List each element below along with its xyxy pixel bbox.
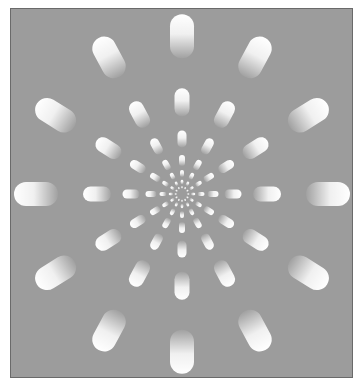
capsule xyxy=(170,14,194,58)
capsule xyxy=(181,186,183,189)
capsule xyxy=(149,232,165,251)
capsule xyxy=(175,196,178,199)
capsule xyxy=(181,199,183,202)
capsule xyxy=(14,182,58,206)
capsule xyxy=(181,180,184,185)
radial-capsule-pattern xyxy=(0,0,361,389)
capsule xyxy=(178,241,187,258)
capsule xyxy=(234,32,276,82)
capsule xyxy=(200,232,216,251)
capsule xyxy=(178,130,187,147)
capsule xyxy=(180,170,184,177)
capsule xyxy=(178,187,181,190)
capsule xyxy=(161,180,169,187)
capsule xyxy=(179,222,185,233)
capsule xyxy=(240,226,272,254)
capsule xyxy=(200,137,216,156)
capsule xyxy=(175,88,190,116)
capsule xyxy=(174,181,178,186)
capsule xyxy=(169,208,176,216)
capsule xyxy=(160,192,167,196)
capsule xyxy=(161,159,171,172)
capsule xyxy=(185,181,189,186)
capsule xyxy=(211,99,237,131)
capsule xyxy=(185,202,189,207)
capsule xyxy=(170,198,175,203)
capsule xyxy=(283,251,333,295)
capsule xyxy=(149,205,162,216)
capsule xyxy=(186,196,189,199)
capsule xyxy=(126,99,152,131)
capsule xyxy=(184,198,187,201)
capsule xyxy=(184,187,187,190)
capsule xyxy=(194,180,202,187)
capsule xyxy=(217,213,236,230)
capsule xyxy=(31,93,81,137)
capsule xyxy=(194,201,202,208)
capsule xyxy=(175,272,190,300)
capsule xyxy=(187,193,190,195)
capsule xyxy=(283,93,333,137)
capsule xyxy=(149,137,165,156)
capsule xyxy=(181,204,184,209)
capsule xyxy=(306,182,350,206)
capsule xyxy=(170,186,175,191)
capsule xyxy=(175,189,178,192)
capsule xyxy=(211,258,237,290)
capsule xyxy=(161,217,171,230)
capsule xyxy=(170,330,194,374)
capsule xyxy=(203,205,216,216)
capsule xyxy=(174,202,178,207)
capsule xyxy=(217,158,236,175)
capsule xyxy=(189,198,194,203)
capsule xyxy=(88,306,130,356)
capsule xyxy=(208,191,219,197)
capsule xyxy=(169,172,176,180)
capsule xyxy=(126,258,152,290)
capsule xyxy=(123,190,140,199)
capsule xyxy=(191,193,196,196)
capsule xyxy=(192,217,202,230)
capsule xyxy=(192,159,202,172)
capsule xyxy=(93,226,125,254)
capsule xyxy=(128,158,147,175)
capsule xyxy=(188,208,195,216)
capsule xyxy=(198,192,205,196)
capsule xyxy=(175,193,178,195)
capsule xyxy=(240,134,272,162)
capsule xyxy=(178,198,181,201)
capsule xyxy=(83,187,111,202)
capsule xyxy=(186,189,189,192)
capsule xyxy=(180,211,184,218)
capsule xyxy=(234,306,276,356)
capsule xyxy=(146,191,157,197)
capsule xyxy=(188,172,195,180)
capsule xyxy=(169,193,174,196)
capsule xyxy=(128,213,147,230)
capsule xyxy=(31,251,81,295)
capsule xyxy=(189,186,194,191)
capsule xyxy=(253,187,281,202)
capsule xyxy=(149,172,162,183)
capsule xyxy=(88,32,130,82)
capsule xyxy=(225,190,242,199)
capsule xyxy=(179,155,185,166)
capsule xyxy=(203,172,216,183)
capsule xyxy=(161,201,169,208)
capsule xyxy=(93,134,125,162)
